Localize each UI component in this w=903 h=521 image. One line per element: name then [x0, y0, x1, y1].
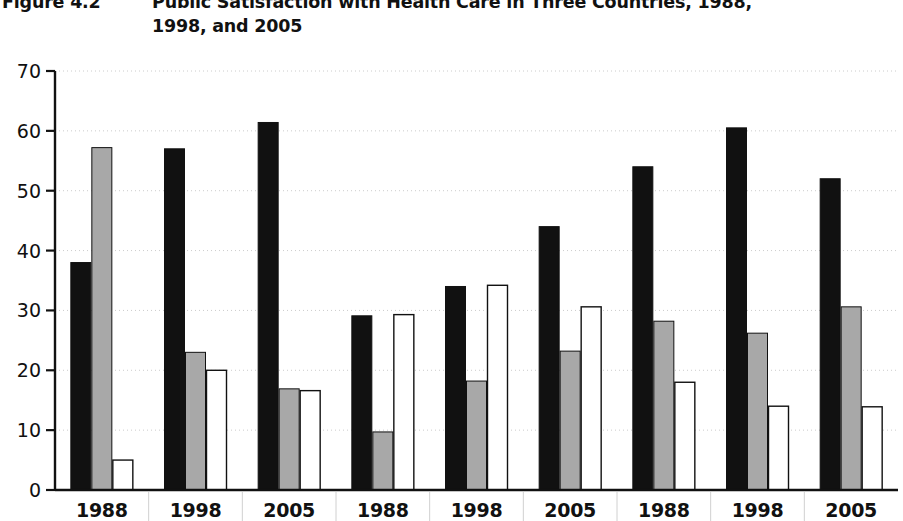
bar [258, 122, 278, 490]
x-axis-tick-label: 1998 [451, 499, 503, 521]
y-axis-tick-label: 0 [29, 479, 41, 501]
bar [539, 227, 559, 490]
bar [394, 315, 414, 490]
bar [467, 381, 487, 490]
x-axis-tick-labels: 198819982005198819982005198819982005 [76, 499, 877, 521]
bar [300, 391, 320, 490]
x-axis-tick-label: 1998 [170, 499, 222, 521]
x-axis-tick-label: 1988 [638, 499, 690, 521]
bar-chart: 706050403020100 198819982005198819982005… [0, 0, 903, 521]
bar [633, 167, 653, 490]
bar [113, 460, 133, 490]
y-axis-tick-label: 40 [17, 240, 41, 262]
bar-series-group [71, 122, 882, 490]
y-axis-tick-label: 20 [17, 359, 41, 381]
y-axis-tick-label: 70 [17, 60, 41, 82]
bar [92, 148, 112, 490]
bar [186, 352, 206, 490]
bar [675, 382, 695, 490]
x-axis-tick-label: 2005 [263, 499, 315, 521]
bar [769, 406, 789, 490]
bar [207, 370, 227, 490]
bar [373, 432, 393, 490]
bar [862, 407, 882, 490]
bar [165, 149, 185, 490]
bar [820, 179, 840, 490]
x-axis-tick-label: 1988 [357, 499, 409, 521]
chart-canvas: 706050403020100 198819982005198819982005… [0, 0, 903, 521]
x-axis-tick-label: 2005 [825, 499, 877, 521]
bar [446, 286, 466, 490]
y-axis-tick-label: 50 [17, 180, 41, 202]
x-axis-tick-label: 2005 [544, 499, 596, 521]
x-axis-tick-label: 1988 [76, 499, 128, 521]
y-axis-tick-label: 30 [17, 299, 41, 321]
bar [727, 128, 747, 490]
x-axis-tick-label: 1998 [732, 499, 784, 521]
bar [581, 307, 601, 490]
bar [352, 316, 372, 490]
y-axis: 706050403020100 [17, 60, 55, 501]
y-axis-tick-label: 10 [17, 419, 41, 441]
bar [654, 321, 674, 490]
bar [279, 389, 299, 490]
bar [71, 263, 91, 490]
bar [560, 351, 580, 490]
bar [841, 307, 861, 490]
bar [748, 333, 768, 490]
bar [488, 285, 508, 490]
y-axis-tick-label: 60 [17, 120, 41, 142]
